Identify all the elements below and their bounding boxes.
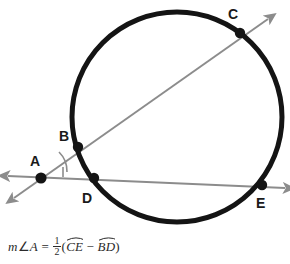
- point-d-dot: [89, 173, 99, 183]
- point-e-dot: [257, 180, 267, 190]
- point-c-dot: [235, 28, 245, 38]
- point-label-c: C: [228, 6, 238, 22]
- arc-bar-ce-icon: [66, 236, 83, 241]
- formula-equals: =: [41, 239, 49, 254]
- fraction-numerator: 1: [53, 236, 60, 246]
- point-label-b: B: [59, 128, 69, 144]
- formula-arc-bd: BD: [98, 237, 116, 255]
- formula-fraction-one-half: 1 2: [53, 236, 60, 257]
- arc-bar-bd-icon: [98, 236, 116, 241]
- point-label-e: E: [256, 195, 265, 211]
- secant-line-ade: [8, 176, 285, 188]
- formula-arc-bd-text: BD: [98, 239, 116, 254]
- point-a-dot: [35, 172, 46, 183]
- formula-minus: −: [87, 239, 95, 254]
- formula-vertex: A: [30, 239, 38, 254]
- fraction-denominator: 2: [53, 246, 60, 257]
- formula-arc-ce: CE: [66, 237, 83, 255]
- formula-close-paren: ): [115, 239, 120, 254]
- point-b-dot: [73, 142, 83, 152]
- circle-shape: [72, 12, 282, 222]
- formula-m: m: [8, 239, 18, 254]
- formula-angle-symbol: ∠: [18, 239, 30, 254]
- angle-formula: m∠A = 1 2 (CE − BD): [8, 236, 120, 257]
- secant-line-abc: [14, 19, 268, 198]
- point-label-a: A: [30, 153, 40, 169]
- geometry-diagram: A B C D E: [0, 0, 290, 264]
- point-label-d: D: [82, 190, 92, 206]
- formula-arc-ce-text: CE: [66, 239, 83, 254]
